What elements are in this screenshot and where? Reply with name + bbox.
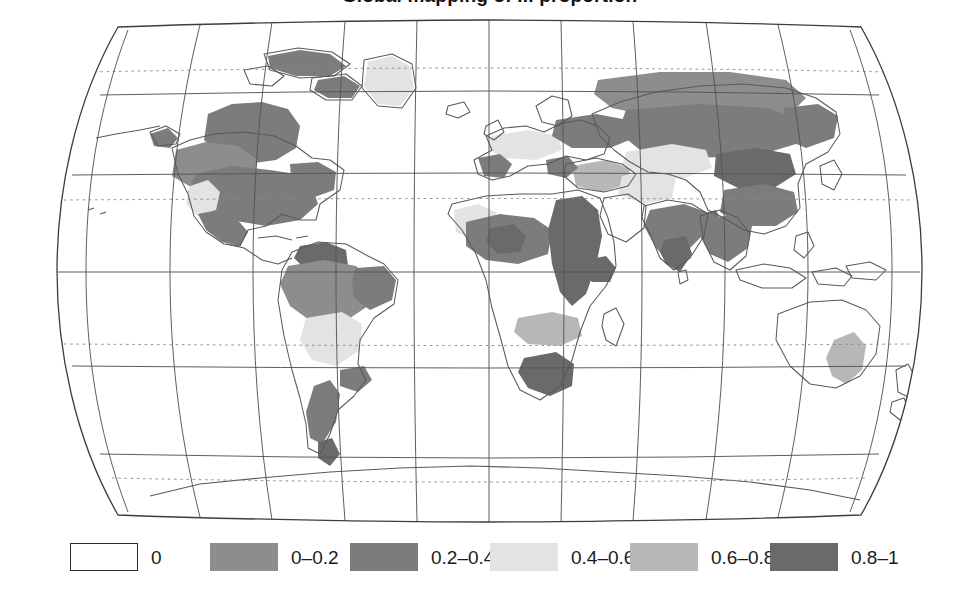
page-title: Global mapping of ... proportion (0, 0, 979, 7)
legend-label-5: 0.8–1 (851, 548, 899, 567)
legend-label-1: 0–0.2 (291, 548, 339, 567)
world-choropleth-map (0, 14, 979, 529)
legend-swatch-0 (70, 543, 138, 571)
legend-item-2[interactable]: 0.2–0.4 (350, 536, 494, 578)
figure-title-cropped: Global mapping of ... proportion (0, 0, 979, 13)
legend-item-3[interactable]: 0.4–0.6 (490, 536, 634, 578)
legend-swatch-3 (490, 543, 558, 571)
legend-item-4[interactable]: 0.6–0.8 (630, 536, 774, 578)
legend-label-3: 0.4–0.6 (571, 548, 634, 567)
map-canvas (0, 14, 979, 529)
legend-label-0: 0 (151, 548, 162, 567)
map-body (0, 14, 979, 529)
legend-item-0[interactable]: 0 (70, 536, 162, 578)
legend-label-4: 0.6–0.8 (711, 548, 774, 567)
legend-item-1[interactable]: 0–0.2 (210, 536, 339, 578)
map-legend: 0 0–0.2 0.2–0.4 0.4–0.6 0.6–0.8 0.8–1 (0, 536, 979, 586)
legend-swatch-2 (350, 543, 418, 571)
legend-swatch-1 (210, 543, 278, 571)
legend-swatch-4 (630, 543, 698, 571)
legend-item-5[interactable]: 0.8–1 (770, 536, 899, 578)
legend-label-2: 0.2–0.4 (431, 548, 494, 567)
legend-swatch-5 (770, 543, 838, 571)
